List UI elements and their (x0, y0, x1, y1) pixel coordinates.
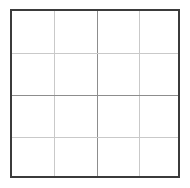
cell-r1c4[interactable] (137, 11, 179, 52)
cell-r2c3[interactable] (95, 52, 137, 93)
cell-r2c2[interactable] (54, 52, 96, 93)
cell-r2c1[interactable] (12, 52, 54, 93)
cell-r1c1[interactable] (12, 11, 54, 52)
cell-r2c4[interactable] (137, 52, 179, 93)
cell-r3c3[interactable] (95, 94, 137, 135)
cell-r1c3[interactable] (95, 11, 137, 52)
cell-r4c3[interactable] (95, 135, 137, 176)
grid-inner-area (12, 11, 178, 176)
cell-r4c2[interactable] (54, 135, 96, 176)
grid-outer-border (10, 9, 180, 178)
cell-r4c1[interactable] (12, 135, 54, 176)
cell-r3c4[interactable] (137, 94, 179, 135)
cell-r4c4[interactable] (137, 135, 179, 176)
cell-r3c2[interactable] (54, 94, 96, 135)
grid-cell-layer (12, 11, 178, 176)
cell-r3c1[interactable] (12, 94, 54, 135)
grid-figure (0, 0, 190, 188)
cell-r1c2[interactable] (54, 11, 96, 52)
